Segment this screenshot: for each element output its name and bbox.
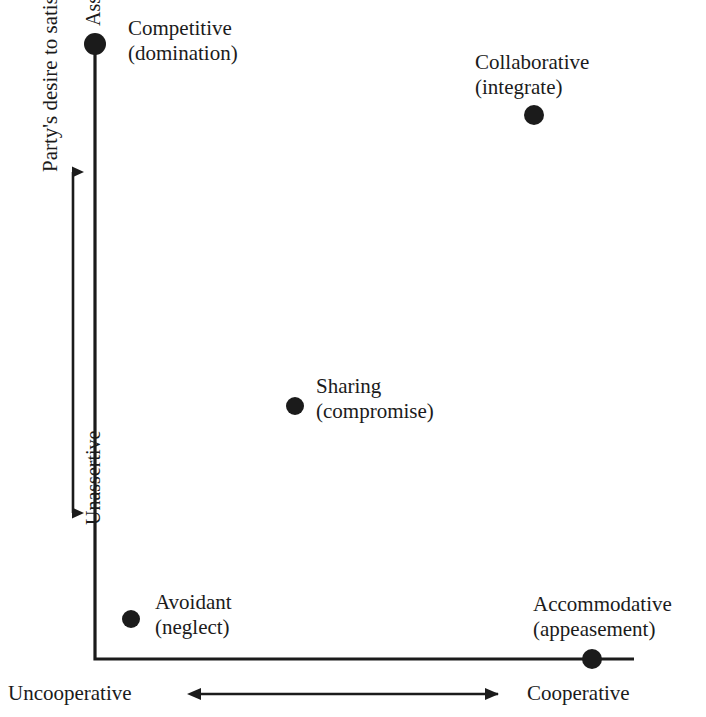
y-axis-tick-assertive: Assertive bbox=[82, 0, 106, 26]
point-label-sharing-line2: (compromise) bbox=[316, 399, 434, 424]
point-label-competitive-line1: Competitive bbox=[128, 16, 232, 40]
data-point-sharing[interactable] bbox=[286, 397, 304, 415]
point-label-sharing-line1: Sharing bbox=[316, 374, 381, 398]
x-axis-label-uncooperative: Uncooperative bbox=[8, 681, 132, 706]
point-label-collaborative: Collaborative (integrate) bbox=[475, 50, 589, 100]
y-axis-tick-unassertive: Unassertive bbox=[82, 431, 106, 525]
x-axis-label-cooperative: Cooperative bbox=[527, 681, 630, 706]
y-axis-title: Party's desire to satisfy own concern bbox=[38, 0, 63, 172]
axis-lines bbox=[95, 44, 634, 659]
point-label-collaborative-line1: Collaborative bbox=[475, 50, 589, 74]
point-label-sharing: Sharing (compromise) bbox=[316, 374, 434, 424]
point-label-competitive-line2: (domination) bbox=[128, 41, 238, 66]
point-label-avoidant: Avoidant (neglect) bbox=[155, 590, 232, 640]
point-label-avoidant-line1: Avoidant bbox=[155, 590, 232, 614]
data-point-competitive[interactable] bbox=[84, 33, 106, 55]
point-label-competitive: Competitive (domination) bbox=[128, 16, 238, 66]
data-point-collaborative[interactable] bbox=[524, 105, 544, 125]
conflict-styles-diagram: Competitive (domination) Collaborative (… bbox=[0, 0, 706, 717]
point-label-accommodative-line1: Accommodative bbox=[533, 592, 672, 616]
point-label-accommodative-line2: (appeasement) bbox=[533, 617, 672, 642]
point-label-avoidant-line2: (neglect) bbox=[155, 615, 232, 640]
data-point-accommodative[interactable] bbox=[582, 649, 602, 669]
data-point-avoidant[interactable] bbox=[122, 610, 140, 628]
point-label-collaborative-line2: (integrate) bbox=[475, 75, 589, 100]
point-label-accommodative: Accommodative (appeasement) bbox=[533, 592, 672, 642]
